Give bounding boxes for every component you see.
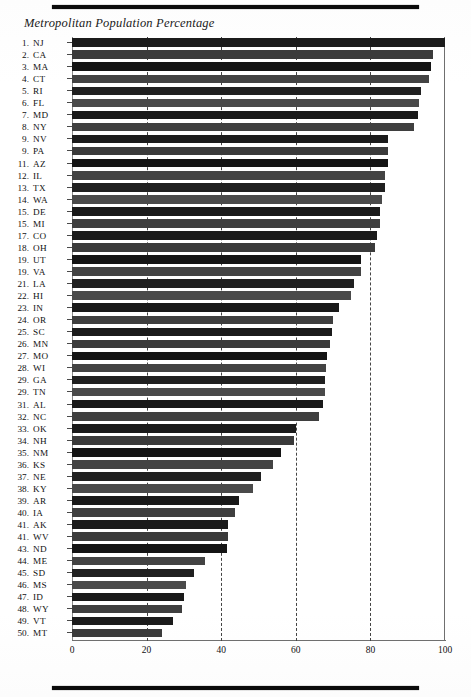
rank-number: 13. xyxy=(18,182,29,194)
x-tick-label-40: 40 xyxy=(216,645,226,655)
x-tick-label-100: 100 xyxy=(438,645,452,655)
rank-number: 44. xyxy=(18,555,29,567)
rank-number: 11. xyxy=(18,158,29,170)
bar-row xyxy=(72,555,445,567)
rank-number: 36. xyxy=(18,459,29,471)
category-label-row: 24.OR xyxy=(0,314,72,326)
bar-row xyxy=(72,37,445,49)
state-abbreviation: NE xyxy=(33,471,61,483)
rank-number: 1. xyxy=(22,37,29,49)
state-abbreviation: KS xyxy=(33,459,61,471)
rank-number: 24. xyxy=(18,314,29,326)
scanned-page: Metropolitan Population Percentage 1.NJ2… xyxy=(0,0,471,697)
state-abbreviation: NH xyxy=(33,435,61,447)
category-label-row: 12.IL xyxy=(0,170,72,182)
bar-row xyxy=(72,386,445,398)
bar-OK xyxy=(72,424,296,433)
bar-row xyxy=(72,61,445,73)
bar-LA xyxy=(72,279,354,288)
bar-OR xyxy=(72,316,333,325)
category-label-row: 3.MA xyxy=(0,61,72,73)
state-abbreviation: ND xyxy=(33,543,61,555)
bar-SC xyxy=(72,328,332,337)
bar-FL xyxy=(72,99,419,108)
state-abbreviation: ME xyxy=(33,555,61,567)
bar-VA xyxy=(72,267,361,276)
state-abbreviation: WV xyxy=(33,531,61,543)
category-label-row: 50.MT xyxy=(0,627,72,639)
rank-number: 19. xyxy=(18,254,29,266)
bar-NY xyxy=(72,123,414,132)
state-abbreviation: TN xyxy=(33,386,61,398)
bar-DE xyxy=(72,207,380,216)
rank-number: 41. xyxy=(18,531,29,543)
rank-number: 26. xyxy=(18,338,29,350)
state-abbreviation: ID xyxy=(33,591,61,603)
state-abbreviation: KY xyxy=(33,483,61,495)
bar-IA xyxy=(72,508,235,517)
bar-WA xyxy=(72,195,382,204)
category-label-row: 43.ND xyxy=(0,543,72,555)
bar-MO xyxy=(72,352,327,361)
rank-number: 49. xyxy=(18,615,29,627)
bar-row xyxy=(72,218,445,230)
bar-WI xyxy=(72,364,326,373)
category-label-row: 14.WA xyxy=(0,194,72,206)
bar-NE xyxy=(72,472,261,481)
state-abbreviation: UT xyxy=(33,254,61,266)
rank-number: 23. xyxy=(18,302,29,314)
bar-row xyxy=(72,194,445,206)
page-bottom-rule xyxy=(52,686,419,690)
category-label-row: 29.GA xyxy=(0,374,72,386)
state-abbreviation: MO xyxy=(33,350,61,362)
state-abbreviation: OR xyxy=(33,314,61,326)
bar-row xyxy=(72,399,445,411)
bar-ND xyxy=(72,544,227,553)
state-abbreviation: SC xyxy=(33,326,61,338)
plot-area xyxy=(72,37,445,641)
state-abbreviation: HI xyxy=(33,290,61,302)
state-abbreviation: IA xyxy=(33,507,61,519)
state-abbreviation: RI xyxy=(33,85,61,97)
rank-number: 41. xyxy=(18,519,29,531)
state-abbreviation: WA xyxy=(33,194,61,206)
rank-number: 35. xyxy=(18,447,29,459)
bar-MI xyxy=(72,219,380,228)
bar-WV xyxy=(72,532,228,541)
bar-row xyxy=(72,278,445,290)
bar-AK xyxy=(72,520,228,529)
rank-number: 15. xyxy=(18,206,29,218)
bar-row xyxy=(72,73,445,85)
category-label-row: 18.OH xyxy=(0,242,72,254)
state-abbreviation: MS xyxy=(33,579,61,591)
bar-NJ xyxy=(72,38,445,47)
bar-row xyxy=(72,230,445,242)
state-abbreviation: AL xyxy=(33,399,61,411)
category-label-row: 9.PA xyxy=(0,145,72,157)
bar-NM xyxy=(72,448,281,457)
state-abbreviation: LA xyxy=(33,278,61,290)
rank-number: 5. xyxy=(22,85,29,97)
category-label-row: 35.NM xyxy=(0,447,72,459)
category-label-row: 22.HI xyxy=(0,290,72,302)
bar-row xyxy=(72,447,445,459)
x-tick-label-80: 80 xyxy=(366,645,376,655)
rank-number: 45. xyxy=(18,567,29,579)
state-abbreviation: AR xyxy=(33,495,61,507)
category-label-row: 41.WV xyxy=(0,531,72,543)
state-abbreviation: AK xyxy=(33,519,61,531)
rank-number: 14. xyxy=(18,194,29,206)
state-abbreviation: MT xyxy=(33,627,61,639)
state-abbreviation: NJ xyxy=(33,37,61,49)
category-label-row: 33.OK xyxy=(0,423,72,435)
bar-row xyxy=(72,362,445,374)
bar-row xyxy=(72,121,445,133)
rank-number: 47. xyxy=(18,591,29,603)
state-abbreviation: DE xyxy=(33,206,61,218)
state-abbreviation: CT xyxy=(33,73,61,85)
bar-KY xyxy=(72,484,253,493)
category-label-row: 49.VT xyxy=(0,615,72,627)
category-label-row: 31.AL xyxy=(0,399,72,411)
rank-number: 18. xyxy=(18,242,29,254)
category-label-row: 11.AZ xyxy=(0,158,72,170)
